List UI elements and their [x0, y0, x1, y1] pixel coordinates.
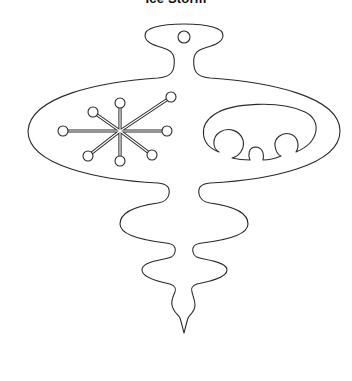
ornament-outline: [28, 24, 340, 333]
ornament-artwork: [0, 0, 352, 381]
bubble-window-outline: [203, 104, 316, 160]
snowflake-icon: [58, 92, 176, 166]
hanger-loop-icon: [178, 31, 190, 43]
